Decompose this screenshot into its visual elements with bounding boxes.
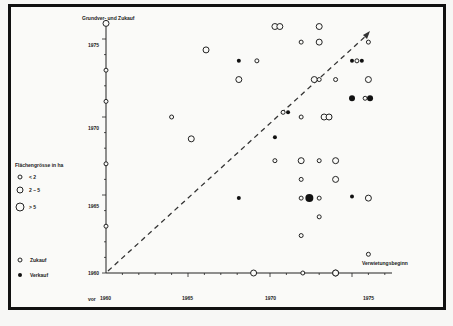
zukauf-point [317, 159, 321, 163]
x-axis-title: Verwietungsbeginn [362, 260, 408, 266]
zukauf-point [299, 40, 303, 44]
x-tick-1960: 1960 [100, 295, 111, 301]
zukauf-point [104, 99, 108, 103]
zukauf-point [366, 252, 370, 256]
zukauf-point [355, 59, 359, 63]
zukauf-point [104, 162, 108, 166]
zukauf-point [301, 271, 305, 275]
zukauf-point [334, 78, 338, 82]
x-tick-1975: 1975 [363, 295, 374, 301]
zukauf-point [170, 115, 174, 119]
x-origin-prefix: vor [88, 296, 96, 302]
zukauf-point [316, 24, 322, 30]
zukauf-point [326, 114, 332, 120]
zukauf-point [236, 77, 242, 83]
x-tick-1965: 1965 [182, 295, 193, 301]
scatter-chart: Grundver- und Zukauf Verwietungsbeginn v… [0, 0, 453, 326]
verkauf-point [305, 194, 313, 202]
zukauf-point [317, 215, 321, 219]
zukauf-point [299, 196, 303, 200]
zukauf-point [365, 77, 371, 83]
y-axis-ticks [102, 39, 106, 273]
y-axis-title: Grundver- und Zukauf [82, 15, 135, 21]
zukauf-point [366, 40, 370, 44]
legend-large-label: > 5 [29, 204, 36, 210]
verkauf-point [237, 196, 241, 200]
legend-small-marker [18, 175, 22, 179]
data-points [103, 20, 373, 276]
diagonal-reference-line [108, 34, 368, 271]
legend-zukauf-label: Zukauf [30, 257, 47, 263]
zukauf-point [188, 136, 194, 142]
zukauf-point [277, 24, 283, 30]
zukauf-point [104, 224, 108, 228]
verkauf-point [273, 135, 277, 139]
legend-large-marker [16, 203, 24, 211]
y-tick-1975: 1975 [88, 42, 99, 48]
zukauf-point [333, 176, 339, 182]
verkauf-point [360, 59, 364, 63]
y-tick-1965: 1965 [88, 203, 99, 209]
zukauf-point [299, 115, 303, 119]
zukauf-point [103, 20, 109, 26]
verkauf-point [350, 59, 354, 63]
zukauf-point [333, 158, 339, 164]
legend-medium-marker [17, 187, 23, 193]
zukauf-point [299, 234, 303, 238]
legend-zukauf-marker [18, 258, 22, 262]
zukauf-point [298, 158, 304, 164]
x-tick-1970: 1970 [265, 295, 276, 301]
verkauf-point [367, 95, 373, 101]
verkauf-point [286, 110, 290, 114]
zukauf-point [203, 47, 209, 53]
zukauf-point [311, 77, 317, 83]
zukauf-point [333, 270, 339, 276]
verkauf-point [350, 195, 354, 199]
zukauf-point [281, 110, 285, 114]
y-tick-1970: 1970 [88, 125, 99, 131]
zukauf-point [273, 159, 277, 163]
zukauf-point [317, 196, 321, 200]
legend-verkauf-label: Verkauf [30, 272, 48, 278]
zukauf-point [316, 39, 322, 45]
zukauf-point [104, 68, 108, 72]
zukauf-point [365, 195, 371, 201]
legend-verkauf-marker [18, 273, 22, 277]
zukauf-point [317, 78, 321, 82]
zukauf-point [299, 177, 303, 181]
zukauf-point [251, 270, 257, 276]
verkauf-point [349, 95, 355, 101]
legend-size-title: Flächengrösse in ha [15, 162, 64, 168]
verkauf-point [237, 59, 241, 63]
zukauf-point [363, 96, 367, 100]
y-tick-1960: 1960 [88, 270, 99, 276]
legend-small-label: < 2 [29, 174, 36, 180]
zukauf-point [255, 59, 259, 63]
legend-medium-label: 2 – 5 [29, 187, 40, 193]
